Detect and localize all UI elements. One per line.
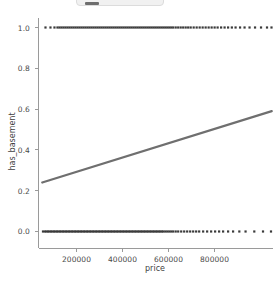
scatter-point [90,26,92,28]
scatter-point [49,26,51,28]
scatter-point [158,26,160,28]
y-tick-label: 0.8 [8,64,30,73]
scatter-point [128,26,130,28]
scatter-point [110,26,112,28]
scatter-point [126,26,128,28]
scatter-point [248,26,250,28]
x-axis-label: price [145,264,165,273]
scatter-point [162,230,164,232]
x-tick-label: 600000 [154,255,183,264]
scatter-point [106,26,108,28]
scatter-point [222,230,224,232]
scatter-point [270,230,272,232]
scatter-point [175,26,177,28]
scatter-point [224,26,226,28]
scatter-point [206,230,208,232]
scatter-point [138,26,140,28]
scatter-point [172,230,174,232]
scatter-point [132,26,134,28]
y-tick-label: 0.0 [8,227,30,236]
scatter-point [42,230,44,232]
scatter-point [84,26,86,28]
scatter-point [168,230,170,232]
scatter-point [122,26,124,28]
scatter-point [160,26,162,28]
scatter-point [142,26,144,28]
regression-line [42,111,272,182]
scatter-point [270,26,272,28]
scatter-point [214,26,216,28]
scatter-point [62,26,64,28]
scatter-point [172,26,174,28]
scatter-point [166,230,168,232]
x-tick-label: 800000 [200,255,229,264]
scatter-point [189,230,191,232]
y-tick-marks [35,28,39,232]
scatter-point [183,230,185,232]
scatter-point [80,26,82,28]
scatter-point [210,230,212,232]
scatter-point [116,26,118,28]
scatter-point [72,26,74,28]
scatter-point [144,26,146,28]
scatter-point [217,26,219,28]
regression-plot-figure: 0.0 0.2 0.4 0.6 0.8 1.0 200000 400000 60… [0,0,273,281]
scatter-point [195,230,197,232]
x-tick-marks [77,249,215,253]
scatter-point [154,26,156,28]
scatter-point [156,26,158,28]
plot-canvas [0,0,273,281]
scatter-point [112,26,114,28]
scatter-point [192,230,194,232]
scatter-point [218,230,220,232]
scatter-point [162,26,164,28]
scatter-point [214,230,216,232]
scatter-point [66,26,68,28]
scatter-point [202,230,204,232]
scatter-point [130,26,132,28]
scatter-point [124,26,126,28]
scatter-point [60,26,62,28]
scatter-point [98,26,100,28]
scatter-points-layer [42,26,273,232]
scatter-point [74,26,76,28]
scatter-point [227,26,229,28]
y-tick-label: 1.0 [8,23,30,32]
scatter-point [244,230,246,232]
scatter-point [239,26,241,28]
scatter-point [92,26,94,28]
scatter-point [152,26,154,28]
scatter-point [177,230,179,232]
scatter-point [175,230,177,232]
scatter-point [70,26,72,28]
scatter-point [170,26,172,28]
scatter-point [78,26,80,28]
scatter-point [164,26,166,28]
scatter-point [76,26,78,28]
scatter-point [68,26,70,28]
scatter-point [185,26,187,28]
scatter-point [150,26,152,28]
scatter-point [262,230,264,232]
scatter-point [196,26,198,28]
scatter-point [58,26,60,28]
scatter-point [199,26,201,28]
scatter-point [232,230,234,232]
scatter-point [234,26,236,28]
scatter-point [146,26,148,28]
scatter-point [100,26,102,28]
scatter-point [53,26,55,28]
scatter-point [170,230,172,232]
scatter-point [44,26,46,28]
scatter-point [180,26,182,28]
regression-line-layer [42,111,272,182]
scatter-point [208,26,210,28]
scatter-point [220,26,222,28]
scatter-point [187,26,189,28]
scatter-point [254,26,256,28]
scatter-point [177,26,179,28]
scatter-point [205,26,207,28]
y-tick-label: 0.2 [8,186,30,195]
scatter-point [190,26,192,28]
scatter-point [193,26,195,28]
